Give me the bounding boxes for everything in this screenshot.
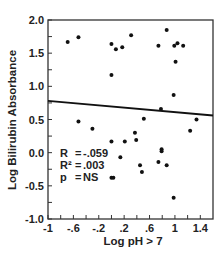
data-point [175, 41, 179, 45]
stat-value: NS [83, 171, 98, 183]
regression-line-path [48, 101, 213, 116]
x-tick-label: -1 [43, 222, 53, 234]
data-point [142, 117, 146, 121]
data-point [172, 93, 176, 97]
x-tick-label: -.2 [92, 222, 105, 234]
data-point [76, 119, 80, 123]
scatter-chart: -1-.6-.2.2.611.4 2.01.51.00.50.0-0.5-1.0… [0, 0, 224, 265]
data-point [165, 28, 169, 32]
data-point [66, 40, 70, 44]
data-point [109, 73, 113, 77]
data-point [76, 35, 80, 39]
data-point [140, 170, 144, 174]
stat-label: R [60, 147, 68, 159]
regression-line [48, 101, 213, 116]
data-point [109, 139, 113, 143]
statistics-annotation: R=-.059R²=.003p=NS [60, 147, 108, 183]
y-tick-label: 1.5 [29, 47, 44, 59]
plot-frame [48, 20, 213, 219]
x-axis-ticks: -1-.6-.2.2.611.4 [43, 215, 209, 234]
data-point [195, 118, 199, 122]
y-tick-label: 0.0 [29, 147, 44, 159]
data-point [160, 149, 164, 153]
x-tick-label: .6 [145, 222, 154, 234]
data-point [111, 176, 115, 180]
stat-equals: = [75, 171, 81, 183]
data-point [114, 47, 118, 51]
data-point [172, 44, 176, 48]
data-point [181, 44, 185, 48]
stat-equals: = [75, 159, 81, 171]
data-point [174, 60, 178, 64]
y-tick-label: 2.0 [29, 14, 44, 26]
data-point [172, 196, 176, 200]
data-point [133, 131, 137, 135]
y-axis-title: Log Bilirubin Absorbance [6, 50, 18, 190]
stat-label: R² [60, 159, 72, 171]
y-tick-label: -1.0 [25, 213, 44, 225]
data-point [134, 138, 138, 142]
data-point [123, 139, 127, 143]
data-point [165, 163, 169, 167]
stat-value: .003 [83, 159, 104, 171]
data-point [90, 127, 94, 131]
y-tick-label: 1.0 [29, 80, 44, 92]
stat-equals: = [75, 147, 81, 159]
data-point [109, 42, 113, 46]
x-tick-label: .2 [120, 222, 129, 234]
x-tick-label: 1.4 [193, 222, 209, 234]
x-tick-label: 1 [172, 222, 178, 234]
data-point [120, 45, 124, 49]
data-point [118, 155, 122, 159]
data-point [188, 129, 192, 133]
data-point [138, 163, 142, 167]
data-point [156, 160, 160, 164]
y-tick-label: -0.5 [25, 180, 44, 192]
data-point [129, 33, 133, 37]
stat-value: -.059 [83, 147, 108, 159]
data-point [156, 44, 160, 48]
x-tick-label: -.6 [67, 222, 80, 234]
y-tick-label: 0.5 [29, 114, 44, 126]
stat-label: p [60, 171, 67, 183]
plot-border [48, 20, 213, 219]
x-axis-title: Log pH > 7 [103, 235, 162, 247]
